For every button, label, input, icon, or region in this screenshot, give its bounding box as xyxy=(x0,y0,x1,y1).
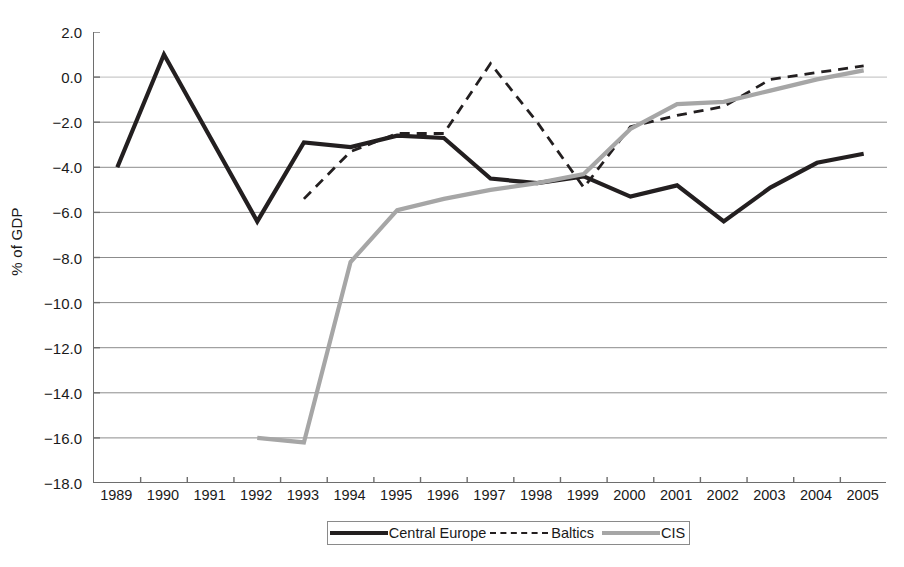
legend-item-cis[interactable]: CIS xyxy=(596,525,687,541)
legend-label-cis: CIS xyxy=(660,525,687,541)
y-axis-tick-label: −6.0 xyxy=(0,204,82,221)
plot-canvas xyxy=(94,32,887,483)
x-axis-tick-label: 1989 xyxy=(100,487,132,503)
x-axis-tick-label: 1995 xyxy=(380,487,412,503)
y-axis-tick-label: 0.0 xyxy=(0,69,82,86)
solid-black-line-swatch-icon xyxy=(330,531,388,535)
y-axis-tick-label: −18.0 xyxy=(0,475,82,492)
legend-item-baltics[interactable]: Baltics xyxy=(488,525,596,541)
legend-label-central-europe: Central Europe xyxy=(388,525,489,541)
x-axis-tick-label: 1990 xyxy=(147,487,179,503)
y-axis-tick-label: −14.0 xyxy=(0,384,82,401)
x-axis-tick-label: 2001 xyxy=(660,487,692,503)
x-axis-tick-label: 2004 xyxy=(800,487,832,503)
solid-gray-line-swatch-icon xyxy=(602,531,660,535)
x-axis-tick-label: 1996 xyxy=(427,487,459,503)
x-axis-tick-label: 2005 xyxy=(847,487,879,503)
x-axis-tick-label: 1991 xyxy=(193,487,225,503)
dashed-black-line-swatch-icon xyxy=(490,532,548,534)
x-axis-tick-label: 1998 xyxy=(520,487,552,503)
y-axis-tick-label: −8.0 xyxy=(0,249,82,266)
x-axis-tick-label: 1993 xyxy=(287,487,319,503)
y-axis-tick-label: −2.0 xyxy=(0,114,82,131)
y-axis-tick-label: 2.0 xyxy=(0,24,82,41)
y-axis-tick-label: −16.0 xyxy=(0,429,82,446)
y-axis-tick-label: −10.0 xyxy=(0,294,82,311)
x-axis-tick-label: 2003 xyxy=(753,487,785,503)
x-axis-tick-labels: 1989199019911992199319941995199619971998… xyxy=(93,487,886,515)
plot-area xyxy=(93,32,886,483)
x-axis-tick-label: 2002 xyxy=(707,487,739,503)
legend-label-baltics: Baltics xyxy=(550,525,596,541)
y-axis-tick-label: −12.0 xyxy=(0,339,82,356)
y-axis-tick-labels: 2.00.0−2.0−4.0−6.0−8.0−10.0−12.0−14.0−16… xyxy=(0,0,93,567)
x-axis-tick-label: 1994 xyxy=(333,487,365,503)
y-axis-tick-label: −4.0 xyxy=(0,159,82,176)
line-chart: % of GDP 2.00.0−2.0−4.0−6.0−8.0−10.0−12.… xyxy=(0,0,904,567)
x-axis-tick-label: 2000 xyxy=(613,487,645,503)
chart-legend: Central Europe Baltics CIS xyxy=(327,521,690,545)
x-axis-tick-label: 1999 xyxy=(567,487,599,503)
x-axis-tick-label: 1997 xyxy=(473,487,505,503)
x-axis-tick-label: 1992 xyxy=(240,487,272,503)
legend-item-central-europe[interactable]: Central Europe xyxy=(330,525,489,541)
